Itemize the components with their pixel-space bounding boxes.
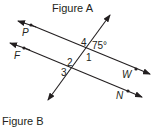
- point-n-dot: [126, 89, 129, 92]
- point-w-dot: [134, 67, 137, 70]
- point-p-dot: [29, 23, 32, 26]
- angle-3-label: 3: [61, 68, 67, 78]
- point-f-dot: [22, 46, 25, 49]
- angle-4-label: 4: [81, 38, 87, 48]
- angle-75-label: 75°: [92, 41, 107, 51]
- parallel-lines-diagram: [0, 0, 160, 128]
- label-w: W: [122, 70, 131, 80]
- figure-canvas: Figure A P F W N 4 75° 1 2 3 Figure B: [0, 0, 160, 128]
- label-f: F: [14, 51, 20, 61]
- angle-2-label: 2: [67, 58, 73, 68]
- figure-b-title: Figure B: [2, 115, 44, 127]
- label-p: P: [22, 28, 29, 38]
- angle-1-label: 1: [86, 53, 92, 63]
- label-n: N: [116, 91, 123, 101]
